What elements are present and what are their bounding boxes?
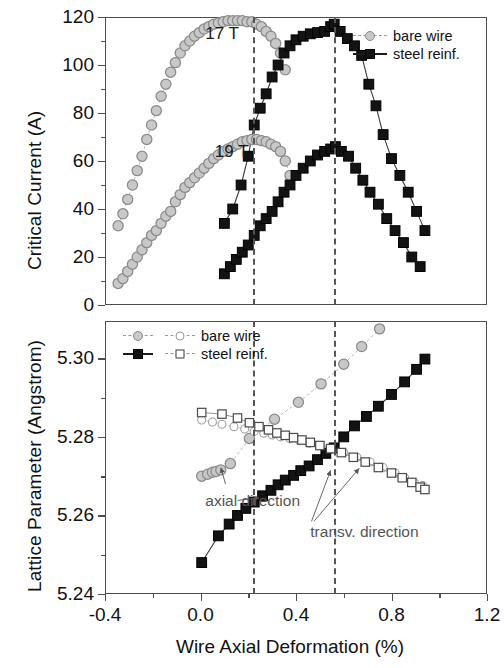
lattice-parameter-panel: 5.245.265.285.30-0.40.00.40.81.2axial di… bbox=[105, 321, 487, 594]
legend-item-bare-wire[interactable]: bare wire bbox=[123, 327, 268, 345]
legend-label: steel reinf. bbox=[393, 47, 460, 62]
data-point bbox=[255, 103, 265, 113]
y-tick bbox=[98, 209, 105, 210]
top-panel-y-axis-title: Critical Current (A) bbox=[24, 111, 46, 270]
data-point bbox=[285, 180, 295, 190]
field-label-1: 17 T bbox=[205, 24, 239, 44]
legend-item-bare-wire[interactable]: bare wire bbox=[353, 27, 460, 45]
legend-item-steel-reinf-[interactable]: steel reinf. bbox=[123, 345, 268, 363]
data-point bbox=[337, 448, 345, 456]
data-point bbox=[118, 209, 128, 219]
peak-guide-line-2 bbox=[334, 17, 336, 305]
y-tick-label: 0 bbox=[83, 294, 94, 316]
data-point bbox=[255, 422, 263, 430]
data-point bbox=[275, 146, 285, 156]
data-point bbox=[398, 474, 406, 482]
data-point bbox=[127, 180, 137, 190]
data-point bbox=[267, 207, 277, 217]
y-tick-label: 120 bbox=[62, 6, 94, 28]
y-minor-tick bbox=[101, 233, 105, 234]
y-tick bbox=[98, 358, 105, 359]
y-tick-label: 5.24 bbox=[57, 583, 94, 605]
data-point bbox=[374, 324, 384, 334]
y-tick bbox=[98, 437, 105, 438]
legend-swatch bbox=[353, 29, 387, 43]
data-point bbox=[387, 469, 395, 477]
data-point bbox=[261, 89, 271, 99]
data-point bbox=[412, 207, 422, 217]
legend-marker-square-dark-icon bbox=[365, 49, 375, 59]
y-tick-label: 5.30 bbox=[57, 347, 94, 369]
x-tick-label: 1.2 bbox=[474, 604, 500, 626]
data-point bbox=[280, 156, 290, 166]
data-point bbox=[344, 151, 354, 161]
x-tick bbox=[296, 594, 297, 601]
data-point bbox=[218, 410, 226, 418]
data-point bbox=[273, 197, 283, 207]
x-minor-tick bbox=[153, 594, 154, 598]
data-point bbox=[281, 431, 289, 439]
direction-annotation-2: transv. direction bbox=[310, 523, 418, 541]
y-tick bbox=[98, 594, 105, 595]
y-tick bbox=[98, 515, 105, 516]
legend-label: bare wire bbox=[393, 29, 453, 44]
data-point bbox=[132, 166, 142, 176]
legend-item-steel-reinf-[interactable]: steel reinf. bbox=[353, 45, 460, 63]
critical-current-legend: bare wiresteel reinf. bbox=[353, 27, 460, 63]
data-point bbox=[264, 426, 272, 434]
data-point bbox=[358, 175, 368, 185]
data-point bbox=[225, 458, 235, 468]
data-point bbox=[166, 206, 176, 216]
data-point bbox=[289, 433, 297, 441]
y-tick-label: 5.28 bbox=[57, 426, 94, 448]
data-point bbox=[407, 252, 417, 262]
data-point bbox=[412, 364, 422, 374]
y-tick-label: 40 bbox=[73, 198, 94, 220]
data-point bbox=[357, 341, 367, 351]
data-point bbox=[395, 171, 405, 181]
data-point bbox=[197, 558, 207, 568]
lattice-parameter-legend: bare wiresteel reinf. bbox=[123, 327, 268, 363]
data-point bbox=[113, 221, 123, 231]
legend-swatch bbox=[123, 347, 153, 361]
data-point bbox=[316, 441, 324, 449]
x-minor-tick bbox=[248, 594, 249, 598]
data-point bbox=[170, 58, 180, 68]
data-point bbox=[373, 401, 383, 411]
x-tick-label: 0.0 bbox=[187, 604, 213, 626]
y-minor-tick bbox=[101, 281, 105, 282]
legend-swatch bbox=[353, 47, 387, 61]
bottom-panel-y-axis-title: Lattice Parameter (Angstrom) bbox=[24, 340, 46, 592]
y-minor-tick bbox=[101, 41, 105, 42]
data-point bbox=[373, 199, 383, 209]
legend-marker-circle-gray-icon bbox=[133, 331, 143, 341]
legend-marker-square-dark-icon bbox=[133, 349, 143, 359]
data-point bbox=[390, 226, 400, 236]
data-point bbox=[350, 421, 360, 431]
data-point bbox=[216, 465, 226, 475]
data-point bbox=[362, 412, 372, 422]
data-point bbox=[208, 418, 216, 426]
peak-guide-line-1 bbox=[253, 17, 255, 305]
direction-annotation-1: axial direction bbox=[205, 492, 300, 510]
y-minor-tick bbox=[101, 89, 105, 90]
legend-swatch bbox=[123, 329, 153, 343]
legend-marker-circle-open-icon bbox=[176, 332, 185, 341]
data-point bbox=[146, 120, 156, 130]
data-point bbox=[230, 423, 238, 431]
x-minor-tick bbox=[344, 594, 345, 598]
x-tick bbox=[487, 594, 488, 601]
data-point bbox=[387, 390, 397, 400]
y-tick-label: 100 bbox=[62, 54, 94, 76]
data-point bbox=[306, 438, 314, 446]
data-point bbox=[271, 38, 281, 48]
legend-swatch bbox=[165, 329, 195, 343]
y-tick bbox=[98, 65, 105, 66]
legend-label: steel reinf. bbox=[201, 347, 268, 362]
data-point bbox=[420, 226, 430, 236]
data-point bbox=[349, 453, 357, 461]
y-minor-tick bbox=[101, 185, 105, 186]
data-point bbox=[142, 134, 152, 144]
data-point bbox=[273, 60, 283, 70]
data-point bbox=[378, 130, 388, 140]
